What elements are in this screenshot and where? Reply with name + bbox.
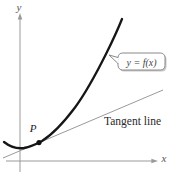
- y-axis-arrowhead-icon: [18, 13, 23, 20]
- curve-equation-label: y = f(x): [125, 57, 157, 69]
- tangent-line-label: Tangent line: [104, 115, 161, 128]
- diagram-canvas: P y = f(x) Tangent line y x: [0, 0, 178, 180]
- callout-tail: [109, 55, 118, 64]
- figure-tangent-line-diagram: P y = f(x) Tangent line y x: [0, 0, 178, 180]
- x-axis-arrowhead-icon: [151, 159, 158, 164]
- callout-tail-mask: [118, 58, 119, 63]
- x-axis-label: x: [161, 152, 167, 164]
- x-axis: [6, 159, 158, 164]
- y-axis-label: y: [16, 1, 22, 13]
- curve-label-callout: y = f(x): [109, 53, 167, 72]
- point-p: [36, 140, 41, 145]
- curve: [4, 19, 122, 148]
- point-p-label: P: [29, 122, 37, 134]
